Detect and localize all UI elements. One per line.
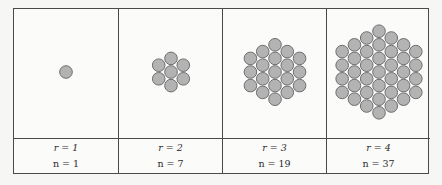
r-label: r = 2 [119,142,222,153]
packed-circle [385,59,398,72]
packed-circle [281,73,294,86]
packed-circle [360,73,373,86]
packed-circle [385,86,398,99]
packed-circle [397,66,410,79]
packed-circle [360,100,373,113]
packed-circle [373,52,386,65]
packed-circle [269,79,282,92]
packed-circle [60,66,73,79]
packed-circle [410,45,423,58]
packed-circle [293,52,306,65]
packed-circle [360,59,373,72]
figure-cell-r4 [327,9,430,139]
n-label: n = 1 [14,158,118,169]
packed-circle [293,79,306,92]
packed-circle [152,73,165,86]
packed-circle [385,100,398,113]
packed-circle [410,59,423,72]
packed-circle [373,39,386,52]
packed-circle [281,86,294,99]
packed-circle [410,73,423,86]
figure-cell-r2 [119,9,222,139]
packed-circle [244,66,257,79]
n-label: n = 19 [223,158,326,169]
packed-circle [165,66,178,79]
packed-circle [360,32,373,45]
packed-circle [385,73,398,86]
packed-circle [373,66,386,79]
r-label: r = 3 [223,142,326,153]
packing-table: r = 1 n = 1 r = 2 n = 7 r = 3 n = 19 r =… [13,8,429,174]
hex-packing-r2 [119,9,223,139]
packed-circle [256,59,269,72]
packed-circle [177,73,190,86]
packed-circle [269,39,282,52]
packed-circle [360,45,373,58]
column-r1: r = 1 n = 1 [14,9,118,173]
hex-packing-r4 [327,9,431,139]
packed-circle [256,45,269,58]
packed-circle [373,107,386,120]
packed-circle [165,79,178,92]
packed-circle [397,39,410,52]
r-label: r = 4 [327,142,430,153]
packed-circle [348,79,361,92]
packed-circle [410,86,423,99]
label-cell-r4: r = 4 n = 37 [327,139,430,173]
packed-circle [269,93,282,106]
packed-circle [256,86,269,99]
packed-circle [165,52,178,65]
packed-circle [293,66,306,79]
r-label: r = 1 [14,142,118,153]
packed-circle [256,73,269,86]
packed-circle [281,59,294,72]
column-r3: r = 3 n = 19 [222,9,326,173]
packed-circle [152,59,165,72]
packed-circle [373,79,386,92]
column-r4: r = 4 n = 37 [326,9,430,173]
packed-circle [348,52,361,65]
packed-circle [336,59,349,72]
label-cell-r2: r = 2 n = 7 [119,139,222,173]
packed-circle [373,25,386,38]
packed-circle [385,32,398,45]
packed-circle [373,93,386,106]
packed-circle [281,45,294,58]
packed-circle [360,86,373,99]
packed-circle [397,52,410,65]
hex-packing-r1 [14,9,118,139]
packed-circle [397,79,410,92]
packed-circle [177,59,190,72]
label-cell-r3: r = 3 n = 19 [223,139,326,173]
label-cell-r1: r = 1 n = 1 [14,139,118,173]
packed-circle [336,73,349,86]
figure-cell-r3 [223,9,326,139]
column-r2: r = 2 n = 7 [118,9,222,173]
packed-circle [397,93,410,106]
packed-circle [244,52,257,65]
n-label: n = 7 [119,158,222,169]
packed-circle [348,39,361,52]
packed-circle [244,79,257,92]
packed-circle [336,45,349,58]
packed-circle [269,66,282,79]
packed-circle [348,66,361,79]
packed-circle [336,86,349,99]
packed-circle [269,52,282,65]
hex-packing-r3 [223,9,327,139]
packed-circle [385,45,398,58]
n-label: n = 37 [327,158,430,169]
figure-cell-r1 [14,9,118,139]
packed-circle [348,93,361,106]
